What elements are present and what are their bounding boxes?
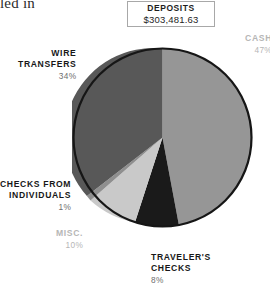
pie-label-wire-transfers-name: WIRETRANSFERS [18,48,76,70]
deposits-title: DEPOSITS [147,3,194,14]
pie-label-wire-transfers: WIRETRANSFERS 34% [18,48,76,82]
deposits-callout-box: DEPOSITS $303,481.63 [127,1,215,27]
pie-label-wire-transfers-pct: 34% [18,71,76,82]
pie-chart [72,47,253,229]
pie-label-travelers-checks: TRAVELER'SCHECKS 8% [151,252,211,286]
pie-label-checks-from-individuals-name: CHECKS FROMINDIVIDUALS [0,179,71,201]
pie-slice-cash [163,48,252,225]
pie-label-cash-name: CASH [245,33,270,44]
pie-label-misc-pct: 10% [56,240,83,251]
pie-chart-svg [72,47,253,229]
page-text-fragment: led in [0,0,35,12]
pie-label-checks-from-individuals: CHECKS FROMINDIVIDUALS 1% [0,179,71,213]
pie-label-cash: CASH 47% [245,33,270,56]
pie-label-cash-pct: 47% [245,45,270,56]
pie-label-travelers-checks-pct: 8% [151,275,211,286]
pie-label-travelers-checks-name: TRAVELER'SCHECKS [151,252,211,274]
pie-label-misc-name: MISC. [56,228,83,239]
pie-label-checks-from-individuals-pct: 1% [0,202,71,213]
pie-label-misc: MISC. 10% [56,228,83,251]
deposits-total-value: $303,481.63 [143,14,198,26]
